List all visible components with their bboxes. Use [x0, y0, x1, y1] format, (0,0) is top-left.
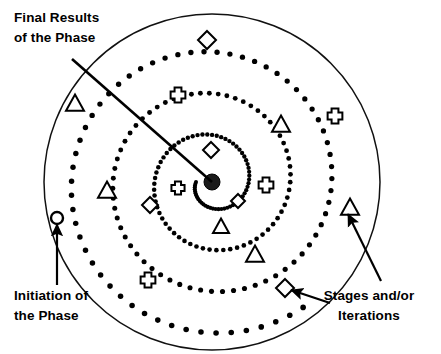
spiral-dot	[157, 211, 162, 216]
spiral-dot	[177, 282, 182, 287]
spiral-dot	[152, 182, 157, 187]
spiral-dot	[288, 164, 293, 169]
stage-marker-clover	[259, 178, 274, 193]
spiral-dot	[313, 233, 318, 238]
spiral-dot	[281, 141, 286, 146]
spiral-dot	[134, 251, 139, 256]
spiral-dot	[286, 156, 291, 161]
spiral-dot	[262, 114, 267, 119]
spiral-dot	[69, 193, 74, 198]
spiral-dot	[323, 211, 328, 216]
spiral-dot	[160, 216, 165, 221]
spiral-dot	[112, 206, 117, 211]
spiral-dot	[149, 266, 154, 271]
stages-label-line2: Iterations	[338, 308, 400, 323]
final-results-ray	[72, 59, 212, 182]
spiral-dot	[127, 73, 132, 78]
spiral-dot	[316, 117, 321, 122]
spiral-dot	[273, 319, 279, 325]
spiral-dot	[162, 55, 167, 60]
spiral-dot	[150, 60, 155, 65]
spiral-dot	[309, 106, 314, 111]
spiral-dot	[227, 51, 232, 56]
spiral-dot	[210, 133, 214, 137]
spiral-dot	[69, 178, 74, 183]
spiral-dot	[273, 273, 278, 278]
spiral-dot	[278, 133, 283, 138]
spiral-dot	[181, 138, 185, 142]
spiral-dot	[221, 248, 226, 253]
final-results-label-line2: of the Phase	[14, 30, 96, 45]
spiral-dot	[214, 248, 219, 253]
initiation-label-line2: the Phase	[14, 308, 79, 323]
spiral-dot	[129, 303, 135, 309]
stage-marker-triangle	[272, 116, 290, 132]
spiral-dot	[244, 158, 248, 162]
spiral-dot	[285, 195, 290, 200]
spiral-dot	[275, 216, 280, 221]
spiral-dot	[247, 177, 251, 181]
stage-marker-triangle	[213, 219, 229, 233]
spiral-dot	[118, 294, 124, 300]
spiral-dot	[231, 141, 235, 145]
spiral-dot	[188, 50, 193, 55]
spiral-phase-diagram: Final Results of the Phase Initiation of…	[0, 0, 441, 354]
spiral-dot	[214, 50, 219, 55]
spiral-dot	[155, 105, 160, 110]
spiral-dot	[73, 221, 78, 226]
spiral-dot	[200, 132, 204, 136]
spiral-dot	[115, 157, 120, 162]
spiral-dot	[213, 330, 219, 336]
spiral-dot	[216, 92, 221, 97]
stage-marker-triangle	[341, 199, 359, 215]
spiral-dot	[271, 222, 276, 227]
spiral-dot	[70, 207, 75, 212]
spiral-dot	[128, 243, 133, 248]
spiral-dot	[118, 225, 123, 230]
spiral-dot	[242, 286, 247, 291]
spiral-dot	[288, 172, 293, 177]
spiral-dot	[201, 49, 206, 54]
spiral-dot	[152, 187, 157, 192]
spiral-dot	[300, 305, 306, 311]
spiral-dot	[142, 259, 147, 264]
spiral-dot	[89, 113, 94, 118]
spiral-dot	[98, 272, 104, 278]
spiral-dot	[90, 260, 96, 266]
spiral-dot	[255, 108, 260, 113]
spiral-dot	[287, 188, 292, 193]
spiral-dot	[231, 288, 236, 293]
spiral-dot	[177, 235, 182, 240]
spiral-dot	[190, 134, 194, 138]
spiral-dot	[83, 125, 88, 130]
stage-marker-clover	[328, 109, 343, 124]
spiral-dot	[300, 251, 305, 256]
spiral-dot	[326, 200, 331, 205]
spiral-dot	[284, 148, 289, 153]
final-results-label-line1: Final Results	[14, 10, 99, 25]
spiral-dot	[189, 92, 194, 97]
spiral-dot	[223, 137, 227, 141]
spiral-dot	[123, 234, 128, 239]
spiral-dot	[77, 234, 82, 239]
spiral-dot	[156, 165, 161, 170]
spiral-dot	[248, 103, 253, 108]
stage-marker-diamond	[198, 31, 216, 49]
spiral-dot	[254, 236, 259, 241]
spiral-dot	[195, 133, 199, 137]
spiral-dot	[207, 247, 212, 252]
spiral-start-circle	[51, 212, 63, 224]
spiral-dot	[167, 226, 172, 231]
stage-marker-triangle	[66, 95, 84, 111]
spiral-dot	[263, 278, 268, 283]
spiral-dot	[234, 144, 238, 148]
initiation-label-line1: Initiation of	[14, 288, 88, 303]
stage-marker-diamond	[276, 279, 294, 297]
spiral-dot	[163, 221, 168, 226]
spiral-dot	[142, 311, 148, 317]
spiral-dot	[172, 231, 177, 236]
spiral-dot	[246, 166, 250, 170]
spiral-dot	[115, 216, 120, 221]
spiral-dot	[319, 222, 324, 227]
spiral-dot	[73, 151, 78, 156]
